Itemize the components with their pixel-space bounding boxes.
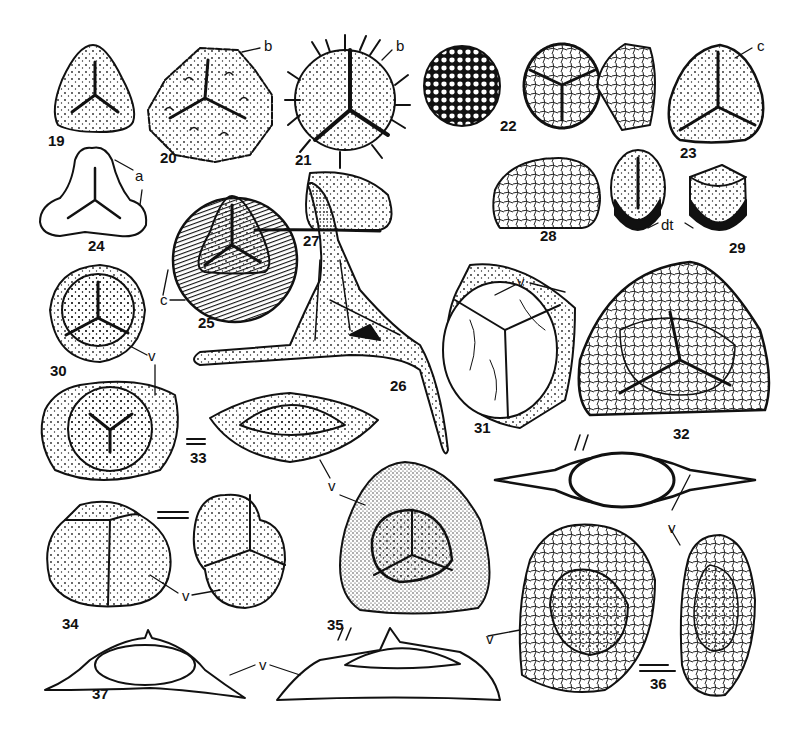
label-36: 36: [650, 676, 667, 691]
label-37: 37: [92, 686, 109, 701]
specimen-34: [47, 495, 285, 608]
specimen-29: [611, 150, 746, 230]
specimen-30: [50, 265, 145, 362]
annotation-v: v: [182, 588, 190, 603]
label-20: 20: [160, 150, 177, 165]
label-23: 23: [680, 145, 697, 160]
label-25: 25: [198, 315, 215, 330]
label-28: 28: [540, 228, 557, 243]
annotation-c: c: [757, 38, 765, 53]
annotation-v: v: [486, 631, 494, 646]
label-35: 35: [327, 617, 344, 632]
annotation-dt: dt: [661, 217, 674, 232]
annotation-b: b: [264, 38, 272, 53]
annotation-v: v: [517, 274, 525, 289]
label-29: 29: [729, 240, 746, 255]
specimen-36: [520, 525, 755, 696]
label-22: 22: [500, 118, 517, 133]
annotation-v: v: [259, 657, 267, 672]
annotation-c: c: [160, 292, 168, 307]
annotation-a: a: [135, 168, 143, 183]
specimen-24: [40, 148, 146, 237]
annotation-v: v: [328, 478, 336, 493]
specimen-22: [424, 44, 655, 130]
spore-plate-drawing: [0, 0, 807, 743]
specimen-19: [55, 45, 134, 132]
label-30: 30: [50, 363, 67, 378]
annotation-v: v: [148, 348, 156, 363]
label-21: 21: [295, 152, 312, 167]
label-27: 27: [303, 233, 320, 248]
specimen-32-section: [495, 435, 755, 507]
specimen-33: [42, 382, 378, 480]
label-34: 34: [62, 616, 79, 631]
specimen-32: [579, 262, 769, 415]
label-19: 19: [48, 133, 65, 148]
specimen-37: [45, 630, 245, 698]
label-26: 26: [390, 378, 407, 393]
label-31: 31: [474, 420, 491, 435]
annotation-v: v: [668, 520, 676, 535]
specimen-25: [173, 196, 297, 322]
specimen-35-section: [277, 628, 500, 700]
annotation-b: b: [396, 38, 404, 53]
specimen-21: [285, 35, 410, 168]
specimen-20: [148, 48, 272, 162]
label-33: 33: [190, 450, 207, 465]
label-32: 32: [673, 426, 690, 441]
specimen-23: [669, 45, 763, 143]
specimen-35: [340, 462, 490, 614]
label-24: 24: [88, 238, 105, 253]
specimen-28: [493, 158, 600, 228]
